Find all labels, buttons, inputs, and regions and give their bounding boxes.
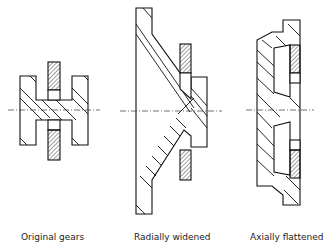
original-gears-section xyxy=(8,62,100,160)
radially-widened-section xyxy=(120,8,222,214)
label-axially-flattened: Axially flattened xyxy=(250,232,323,242)
label-radially-widened: Radially widened xyxy=(134,232,211,242)
label-original-gears: Original gears xyxy=(21,232,84,242)
gear-cross-section-diagram xyxy=(0,0,332,250)
axially-flattened-section xyxy=(246,20,314,205)
